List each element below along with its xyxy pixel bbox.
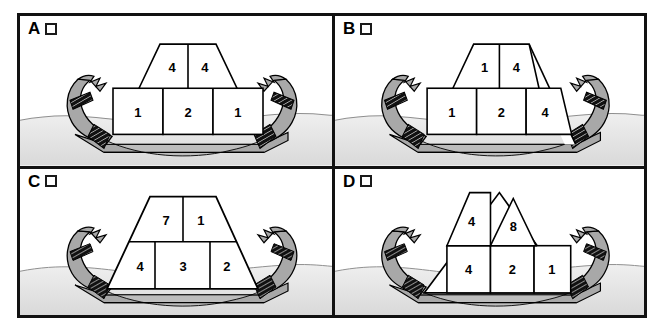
- cell-value: 8: [510, 219, 517, 234]
- cell-value: 1: [234, 105, 241, 120]
- cell-value: 3: [179, 258, 186, 273]
- panel-c-label[interactable]: C: [28, 173, 57, 190]
- panel-a[interactable]: A: [20, 16, 332, 166]
- cell-value: 4: [541, 105, 549, 120]
- cell-value: 1: [481, 60, 488, 75]
- panel-b-label[interactable]: B: [343, 20, 372, 37]
- panel-d-letter: D: [343, 173, 355, 190]
- panel-d[interactable]: D: [332, 166, 644, 316]
- panel-b[interactable]: B: [332, 16, 644, 166]
- block-bottom-3: [526, 88, 572, 134]
- panel-d-checkbox[interactable]: [360, 175, 372, 187]
- panel-a-scene: 1 2 1 4 4: [20, 16, 332, 166]
- panel-grid: A: [20, 16, 644, 315]
- panel-c-checkbox[interactable]: [45, 175, 57, 187]
- figure-frame: A: [17, 13, 647, 318]
- panel-b-checkbox[interactable]: [360, 23, 372, 35]
- panel-a-label[interactable]: A: [28, 20, 57, 37]
- block-top-trapezoid: [453, 44, 539, 88]
- cell-value: 1: [548, 261, 555, 276]
- panel-b-letter: B: [343, 20, 355, 37]
- panel-a-checkbox[interactable]: [45, 23, 57, 35]
- cell-value: 2: [223, 258, 230, 273]
- panel-d-label[interactable]: D: [343, 173, 372, 190]
- cell-value: 4: [465, 261, 473, 276]
- panel-a-letter: A: [28, 20, 40, 37]
- cell-value: 7: [162, 212, 169, 227]
- cell-value: 1: [197, 212, 204, 227]
- cell-value: 2: [184, 105, 191, 120]
- cell-value: 2: [498, 105, 505, 120]
- cell-value: 1: [448, 105, 455, 120]
- panel-b-scene: 1 2 4 1 4: [335, 16, 644, 166]
- panel-c-scene: 7 1 4 3 2: [20, 169, 332, 316]
- cell-value: 4: [201, 60, 209, 75]
- cell-value: 4: [513, 60, 521, 75]
- panel-d-scene: 4 2 1 4 8: [335, 169, 644, 316]
- panel-c-letter: C: [28, 173, 40, 190]
- cell-value: 4: [168, 60, 176, 75]
- cell-value: 4: [468, 213, 476, 228]
- cell-value: 1: [134, 105, 141, 120]
- panel-c[interactable]: C: [20, 166, 332, 316]
- cell-value: 2: [509, 261, 516, 276]
- cell-value: 4: [136, 258, 144, 273]
